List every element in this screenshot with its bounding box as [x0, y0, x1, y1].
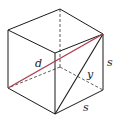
label-s-bottom: s	[83, 101, 89, 114]
label-s-right: s	[107, 56, 113, 69]
top-face	[8, 9, 103, 53]
edge-bottom-left	[8, 88, 55, 114]
label-y: y	[86, 68, 94, 81]
hidden-edge-left	[8, 67, 60, 88]
cube-diagram: d y s s	[0, 0, 119, 127]
label-d: d	[35, 57, 42, 70]
